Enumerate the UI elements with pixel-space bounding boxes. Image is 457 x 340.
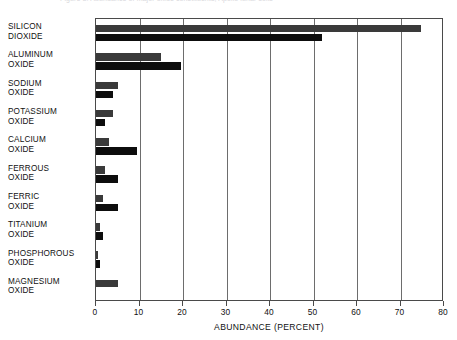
- bar: [96, 119, 105, 127]
- x-tick-30: [226, 301, 227, 306]
- bar: [96, 91, 113, 99]
- category-label-line: SODIUM: [8, 79, 96, 89]
- category-label-line: CALCIUM: [8, 135, 96, 145]
- bar: [96, 166, 105, 174]
- x-axis-title: ABUNDANCE (PERCENT): [95, 322, 443, 332]
- bar: [96, 147, 137, 155]
- abundance-bar-chart: SILICONDIOXIDEALUMINUMOXIDESODIUMOXIDEPO…: [0, 0, 457, 340]
- category-label-line: OXIDE: [8, 230, 96, 240]
- category-label: MAGNESIUMOXIDE: [8, 277, 96, 296]
- x-tick-80: [443, 301, 444, 306]
- gridline-70: [401, 19, 402, 300]
- category-label: SODIUMOXIDE: [8, 79, 96, 98]
- x-tick-label: 40: [264, 307, 274, 317]
- x-tick-label: 80: [438, 307, 448, 317]
- category-label-line: FERROUS: [8, 164, 96, 174]
- gridline-60: [357, 19, 358, 300]
- x-tick-60: [356, 301, 357, 306]
- category-label-line: OXIDE: [8, 117, 96, 127]
- x-tick-label: 30: [221, 307, 231, 317]
- category-label-line: OXIDE: [8, 173, 96, 183]
- gridline-50: [314, 19, 315, 300]
- bar: [96, 204, 118, 212]
- x-tick-label: 70: [395, 307, 405, 317]
- bar: [96, 34, 322, 42]
- x-tick-70: [400, 301, 401, 306]
- category-label-line: SILICON: [8, 22, 96, 32]
- category-label-line: TITANIUM: [8, 220, 96, 230]
- bar: [96, 260, 100, 268]
- category-label: POTASSIUMOXIDE: [8, 107, 96, 126]
- category-label: FERROUSOXIDE: [8, 164, 96, 183]
- category-label: TITANIUMOXIDE: [8, 220, 96, 239]
- bar: [96, 53, 161, 61]
- category-label-line: OXIDE: [8, 258, 96, 268]
- bar: [96, 280, 118, 288]
- bar: [96, 223, 100, 231]
- category-label-line: OXIDE: [8, 145, 96, 155]
- category-label-line: DIOXIDE: [8, 32, 96, 42]
- category-label: SILICONDIOXIDE: [8, 22, 96, 41]
- x-tick-label: 20: [177, 307, 187, 317]
- bar: [96, 110, 113, 118]
- category-label-line: FERRIC: [8, 192, 96, 202]
- category-label-line: OXIDE: [8, 60, 96, 70]
- gridline-40: [270, 19, 271, 300]
- bar: [96, 82, 118, 90]
- category-label-line: POTASSIUM: [8, 107, 96, 117]
- bar: [96, 175, 118, 183]
- x-tick-label: 60: [351, 307, 361, 317]
- x-tick-10: [139, 301, 140, 306]
- category-label: FERRICOXIDE: [8, 192, 96, 211]
- x-tick-0: [95, 301, 96, 306]
- bar: [96, 195, 103, 203]
- category-label-line: OXIDE: [8, 286, 96, 296]
- x-tick-50: [313, 301, 314, 306]
- bar: [96, 251, 98, 259]
- category-axis-labels: SILICONDIOXIDEALUMINUMOXIDESODIUMOXIDEPO…: [0, 18, 93, 301]
- gridline-30: [227, 19, 228, 300]
- gridline-10: [140, 19, 141, 300]
- category-label-line: MAGNESIUM: [8, 277, 96, 287]
- category-label: PHOSPHOROUSOXIDE: [8, 249, 96, 268]
- x-tick-20: [182, 301, 183, 306]
- bar: [96, 25, 421, 33]
- x-tick-label: 0: [93, 307, 98, 317]
- category-label: CALCIUMOXIDE: [8, 135, 96, 154]
- bar: [96, 138, 109, 146]
- category-label-line: OXIDE: [8, 88, 96, 98]
- category-label-line: PHOSPHOROUS: [8, 249, 96, 259]
- category-label: ALUMINUMOXIDE: [8, 50, 96, 69]
- x-tick-label: 10: [134, 307, 144, 317]
- category-label-line: OXIDE: [8, 202, 96, 212]
- category-label-line: ALUMINUM: [8, 50, 96, 60]
- bar: [96, 232, 103, 240]
- x-tick-label: 50: [308, 307, 318, 317]
- plot-area: [95, 18, 443, 301]
- gridline-20: [183, 19, 184, 300]
- x-tick-40: [269, 301, 270, 306]
- bar: [96, 62, 181, 70]
